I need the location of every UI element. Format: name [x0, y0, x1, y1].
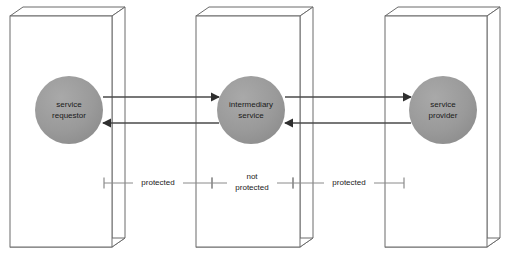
intermediary-service-node: intermediaryservice	[217, 76, 285, 144]
service-provider-node: serviceprovider	[409, 76, 477, 144]
bracket-label: protected	[141, 178, 174, 187]
node-shape	[409, 76, 477, 144]
service-requestor-node: servicerequestor	[35, 76, 103, 144]
container-top-face	[10, 7, 125, 16]
node-shape	[217, 76, 285, 144]
container-right-face	[300, 7, 313, 247]
container-right-face	[487, 7, 500, 247]
container-top-face	[385, 7, 500, 16]
bracket-label: protected	[332, 178, 365, 187]
service-intermediary-diagram: protectednotprotectedprotected servicere…	[0, 0, 509, 267]
container-top-face	[196, 7, 313, 16]
container-right-face	[112, 7, 125, 247]
node-shape	[35, 76, 103, 144]
